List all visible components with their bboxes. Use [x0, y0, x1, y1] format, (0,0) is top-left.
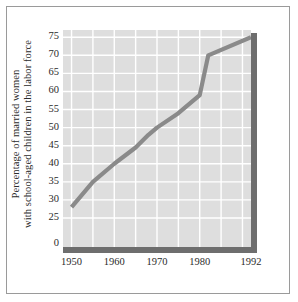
y-tick-label: 65 [35, 66, 59, 77]
y-tick-label: 50 [35, 121, 59, 132]
x-tick-label: 1960 [104, 256, 125, 267]
y-tick-label: 40 [35, 157, 59, 168]
y-tick-label: 75 [35, 30, 59, 41]
plot-area [63, 30, 251, 247]
y-tick-label: 70 [35, 48, 59, 59]
x-axis-spine-bottom [63, 247, 257, 253]
x-tick-label: 1992 [241, 256, 262, 267]
chart-figure: Percentage of married women with school-… [0, 0, 298, 302]
y-tick-label: 55 [35, 103, 59, 114]
y-tick-label: 25 [35, 211, 59, 222]
plot-svg [63, 30, 251, 247]
y-tick-label: 0 [35, 237, 59, 248]
x-axis-ticks: 19501960197019801992 [0, 256, 298, 274]
y-axis-spine-right [251, 33, 257, 253]
y-axis-label-line-1: Percentage of married women [10, 70, 22, 199]
gridlines [63, 30, 251, 247]
y-axis-label-line-2: with school-aged children in the labor f… [22, 40, 34, 228]
x-tick-label: 1980 [189, 256, 210, 267]
x-tick-label: 1970 [147, 256, 168, 267]
y-tick-label: 45 [35, 139, 59, 150]
y-tick-label: 35 [35, 175, 59, 186]
y-tick-label: 60 [35, 84, 59, 95]
y-tick-label: 30 [35, 193, 59, 204]
x-tick-label: 1950 [61, 256, 82, 267]
